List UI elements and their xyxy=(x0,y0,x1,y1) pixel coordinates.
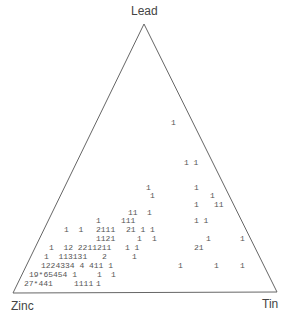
vertex-label-lead: Lead xyxy=(131,5,158,17)
count-cell: 2 xyxy=(102,253,107,261)
count-cell: 21 xyxy=(194,244,204,252)
count-cell: 1224334 4 411 1 xyxy=(41,262,113,270)
count-cell: 1 xyxy=(178,262,183,270)
count-cell: 1 xyxy=(137,235,142,243)
count-cell: 1 xyxy=(97,271,102,279)
count-cell: 1 xyxy=(210,192,215,200)
count-cell: 1 xyxy=(147,209,152,217)
count-cell: 1121 xyxy=(96,235,115,243)
count-cell: 1 1 xyxy=(125,244,139,252)
count-cell: 1 xyxy=(132,253,137,261)
count-cell: 1 xyxy=(194,201,199,209)
count-cell: 1111 xyxy=(74,280,93,288)
count-cell: 1 xyxy=(150,192,155,200)
count-cell: 2111 xyxy=(96,226,115,234)
count-cell: 1 1 xyxy=(64,226,83,234)
count-cell: 1 xyxy=(96,217,101,225)
count-cell: 1 xyxy=(194,184,199,192)
count-cell: 27*441 xyxy=(24,280,53,288)
count-cell: 111 xyxy=(121,217,135,225)
count-cell: 1 1 xyxy=(184,159,198,167)
vertex-label-tin: Tin xyxy=(262,298,278,310)
count-cell: 1 xyxy=(240,262,245,270)
count-cell: 1 12 2211211 xyxy=(49,244,111,252)
count-cell: 1 xyxy=(171,119,176,127)
count-cell: 1 1 xyxy=(194,217,208,225)
count-cell: 1 xyxy=(214,262,219,270)
count-cell: 1 xyxy=(206,235,211,243)
count-cell: 1 xyxy=(240,235,245,243)
count-cell: 11 xyxy=(214,201,224,209)
count-cell: 19*65454 1 xyxy=(29,271,77,279)
count-cell: 1 xyxy=(111,271,116,279)
count-cell: 1 113131 xyxy=(44,253,87,261)
count-cell: 21 1 1 xyxy=(126,226,155,234)
count-cell: 1 xyxy=(96,280,101,288)
count-cell: 1 xyxy=(152,235,157,243)
vertex-label-zinc: Zinc xyxy=(11,300,34,312)
ternary-plot: Lead Zinc Tin 11 1111111111111111 11 121… xyxy=(0,0,292,318)
